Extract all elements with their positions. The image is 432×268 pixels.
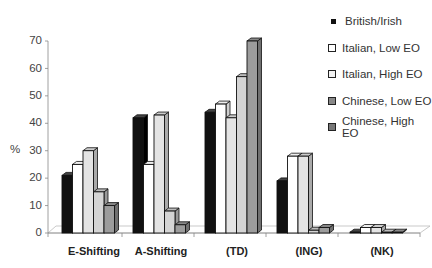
- y-tick: 60: [20, 62, 42, 74]
- legend-swatch-icon: [328, 97, 336, 105]
- legend-swatch-icon: [328, 44, 336, 52]
- x-label-td: (TD): [197, 245, 277, 257]
- legend-item-italian-high-eo: Italian, High EO: [328, 61, 432, 88]
- legend-item-italian-low-eo: Italian, Low EO: [328, 35, 432, 62]
- legend-swatch-icon: [328, 70, 336, 78]
- legend: British/Irish Italian, Low EO Italian, H…: [328, 8, 432, 141]
- y-tick: 20: [20, 171, 42, 183]
- legend-label: Italian, High EO: [342, 68, 423, 80]
- y-tick: 0: [20, 226, 42, 238]
- legend-item-british-irish: British/Irish: [328, 8, 432, 35]
- x-label-a-shifting: A-Shifting: [121, 245, 201, 257]
- bar: [298, 153, 313, 233]
- legend-label: British/Irish: [345, 15, 402, 27]
- bar: [247, 38, 262, 233]
- y-tick: 30: [20, 144, 42, 156]
- y-tick: 40: [20, 116, 42, 128]
- y-tick: 70: [20, 34, 42, 46]
- bar: [175, 222, 190, 233]
- y-tick: 50: [20, 89, 42, 101]
- x-label-nk: (NK): [342, 245, 422, 257]
- legend-label: Italian, Low EO: [342, 42, 420, 54]
- y-tick: 10: [20, 199, 42, 211]
- legend-item-chinese-high-eo: Chinese, High EO: [328, 114, 432, 141]
- legend-swatch-icon: [331, 19, 336, 24]
- bar: [104, 203, 119, 233]
- x-label-ing: (ING): [269, 245, 349, 257]
- y-axis-label: %: [10, 143, 20, 155]
- legend-item-chinese-low-eo: Chinese, Low EO: [328, 88, 432, 115]
- legend-label: Chinese, Low EO: [342, 95, 432, 107]
- legend-label: Chinese, High EO: [342, 115, 432, 139]
- bar: [319, 225, 334, 233]
- legend-swatch-icon: [328, 123, 336, 131]
